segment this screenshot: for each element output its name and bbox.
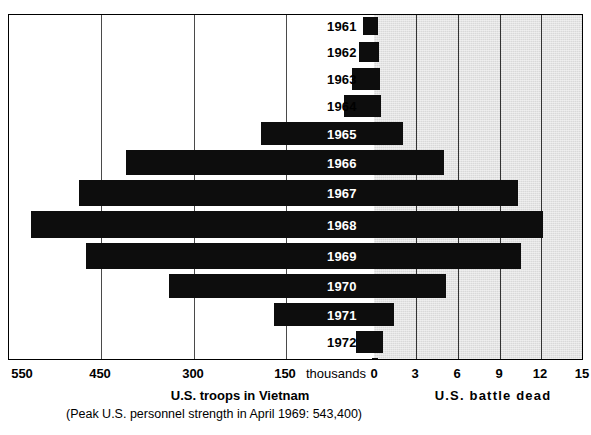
year-label-1962: 1962 xyxy=(327,46,357,59)
tick-dead-12: 12 xyxy=(533,366,547,381)
bar-row: 1969 xyxy=(9,243,582,269)
tick-dead-9: 9 xyxy=(495,366,502,381)
left-axis-note: (Peak U.S. personnel strength in April 1… xyxy=(66,407,362,421)
year-label-1969: 1969 xyxy=(327,250,357,263)
bar-row: 1965 xyxy=(9,122,582,145)
tick-dead-6: 6 xyxy=(453,366,460,381)
bar-1972 xyxy=(356,331,383,353)
axis-captions: U.S. troops in Vietnam (Peak U.S. person… xyxy=(0,388,591,434)
year-label-1970: 1970 xyxy=(327,280,357,293)
bar-1969 xyxy=(86,243,521,269)
tick-dead-15: 15 xyxy=(575,366,589,381)
bar-row: 1968 xyxy=(9,211,582,238)
tick-troops-300: 300 xyxy=(182,366,204,381)
year-label-1971: 1971 xyxy=(327,308,357,321)
year-label-1966: 1966 xyxy=(327,156,357,169)
left-axis-title: U.S. troops in Vietnam xyxy=(171,388,309,403)
bar-1973 xyxy=(372,358,378,360)
bar-series-container: 1961196219631964196519661967196819691970… xyxy=(9,15,582,359)
bar-row: 1966 xyxy=(9,150,582,175)
tick-troops-450: 450 xyxy=(89,366,111,381)
year-label-1961: 1961 xyxy=(327,20,357,33)
bar-1970 xyxy=(169,274,446,298)
bar-row: 1973 xyxy=(9,358,582,360)
bar-1961 xyxy=(363,17,378,35)
year-label-1963: 1963 xyxy=(327,73,357,86)
chart-plot-area: 1961196219631964196519661967196819691970… xyxy=(8,14,583,360)
bar-row: 1963 xyxy=(9,68,582,90)
bar-1967 xyxy=(79,180,518,206)
chart-page: 1961196219631964196519661967196819691970… xyxy=(0,0,591,435)
year-label-1972: 1972 xyxy=(327,336,357,349)
right-axis-title: U.S. battle dead xyxy=(435,388,552,403)
bar-row: 1967 xyxy=(9,180,582,206)
bar-row: 1972 xyxy=(9,331,582,353)
year-label-1965: 1965 xyxy=(327,127,357,140)
tick-troops-150: 150 xyxy=(274,366,296,381)
bar-row: 1962 xyxy=(9,42,582,62)
year-label-1967: 1967 xyxy=(327,187,357,200)
x-axis-tick-labels: 550450300150thousands03691215 xyxy=(0,366,591,388)
tick-dead-3: 3 xyxy=(411,366,418,381)
bar-row: 1961 xyxy=(9,17,582,35)
bar-1962 xyxy=(359,42,379,62)
bar-row: 1970 xyxy=(9,274,582,298)
bar-row: 1964 xyxy=(9,95,582,117)
bar-1966 xyxy=(126,150,444,175)
year-label-1964: 1964 xyxy=(327,100,357,113)
unit-label-thousands: thousands xyxy=(306,366,366,381)
bar-row: 1971 xyxy=(9,303,582,326)
year-label-1968: 1968 xyxy=(327,218,357,231)
tick-dead-0: 0 xyxy=(370,366,377,381)
bar-1968 xyxy=(31,211,543,238)
tick-troops-550: 550 xyxy=(11,366,33,381)
